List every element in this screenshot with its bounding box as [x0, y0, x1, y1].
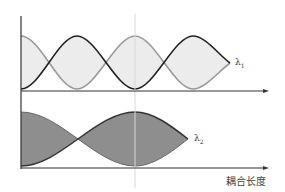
x-axis-upper-arrow	[263, 89, 269, 93]
lambda2-fill	[21, 112, 188, 166]
x-axis-label: 耦合长度	[226, 173, 266, 188]
coupling-diagram	[0, 0, 285, 192]
lambda1-fill	[21, 36, 230, 89]
lambda1-label: λ1	[235, 57, 245, 69]
x-axis-lower-arrow	[263, 166, 269, 170]
lambda2-label: λ2	[194, 133, 204, 145]
